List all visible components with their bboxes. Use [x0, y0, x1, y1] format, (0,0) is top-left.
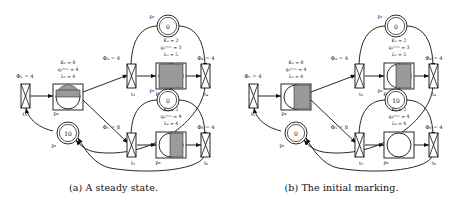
- transition-t5-label: t₅: [359, 160, 363, 166]
- panel-b: t₁ Φ₁ = 4 p₄ K₂ = 8 q₂ᵐᵃˣ = 4 λ₂ = 4 0 p…: [228, 0, 455, 180]
- place-p4-label: p₄: [53, 110, 58, 117]
- caption-panel-a: (a) A steady state.: [0, 182, 227, 193]
- place-p4: [53, 84, 83, 110]
- transition-t1-label: t₁: [251, 111, 255, 117]
- transition-t6: [429, 133, 438, 157]
- place-p6: [384, 132, 414, 158]
- panel-b-place-p1: 0: [285, 122, 307, 144]
- transition-t3-rate: Φ₃ = 4: [331, 55, 349, 61]
- place-p3-tokens: 10: [392, 97, 400, 104]
- panel-b-module-3: 10 p₃ t₅ Φ₅ = 8 p₆ K₄ = 2 q₄ᵐᵃˣ = 4 λ₄ =…: [331, 87, 444, 166]
- place-p4-param-1: K₂ = 8: [289, 60, 304, 65]
- transition-t5-rate: Φ₅ = 8: [103, 124, 120, 130]
- place-p2: 0: [385, 15, 407, 37]
- transition-t6-rate: Φ₆ = 4: [425, 124, 443, 130]
- panel-b-module-1: t₁ Φ₁ = 4 p₄ K₂ = 8 q₂ᵐᵃˣ = 4 λ₂ = 4: [244, 60, 311, 117]
- transition-t4-rate: Φ₄ = 4: [197, 55, 215, 61]
- transition-t1-rate: Φ₁ = 4: [244, 73, 262, 79]
- place-p1-tokens: 10: [64, 130, 72, 137]
- place-p4-param-2: q₂ᵐᵃˣ = 4: [285, 67, 306, 72]
- panel-a: t1 Φ₁ = 4 p₄ K₂ = 8 q₂ᵐᵃˣ = 4 λ₂ = 4: [0, 0, 227, 180]
- place-p4-param-3: λ₂ = 4: [61, 74, 76, 79]
- place-p6-label: p₆: [155, 159, 160, 166]
- place-p1-label: p₁: [279, 142, 284, 149]
- place-p6-param-1: K₄ = 2: [392, 107, 407, 112]
- place-p2-tokens: 0: [394, 23, 398, 30]
- panel-a-module-1: t1 Φ₁ = 4 p₄ K₂ = 8 q₂ᵐᵃˣ = 4 λ₂ = 4: [16, 60, 83, 117]
- transition-t5-label: t₅: [131, 160, 135, 166]
- place-p3-tokens: 0: [166, 97, 170, 104]
- panel-a-module-3: 0 p₃ t₅ Φ₅ = 8 p₆ K₄ = 2 q₄ᵐᵃˣ = 4 λ₄ = …: [103, 87, 216, 166]
- place-p2-tokens: 0: [166, 23, 170, 30]
- place-p2-label: p₂: [377, 13, 382, 20]
- transition-t5-rate: Φ₅ = 8: [331, 124, 348, 130]
- place-p5-param-1: K₃ = 2: [164, 38, 179, 43]
- transition-t1-label: t1: [22, 111, 27, 117]
- place-p6-param-2: q₄ᵐᵃˣ = 4: [388, 114, 409, 119]
- figure-petri-nets: t1 Φ₁ = 4 p₄ K₂ = 8 q₂ᵐᵃˣ = 4 λ₂ = 4: [0, 0, 455, 216]
- place-p4-label: p₄: [281, 110, 286, 117]
- transition-t3-label: t₃: [359, 91, 363, 97]
- place-p3-label: p₃: [149, 87, 154, 94]
- transition-t1: [21, 84, 30, 108]
- transition-t6-label: t₆: [432, 160, 436, 166]
- place-p6: [156, 132, 186, 158]
- transition-t1-rate: Φ₁ = 4: [16, 73, 34, 79]
- place-p6-label: p₆: [383, 159, 388, 166]
- transition-t4: [201, 64, 210, 88]
- transition-t5: [127, 133, 136, 157]
- place-p5-param-3: λ₃ = 5: [164, 52, 179, 57]
- place-p5-param-1: K₃ = 2: [392, 38, 407, 43]
- transition-t6-rate: Φ₆ = 4: [197, 124, 215, 130]
- transition-t3: [127, 64, 136, 88]
- place-p5: [384, 63, 414, 89]
- panel-b-module-2: 0 p₂ t₃ Φ₃ = 4 p₅ K₃ = 2 q₃ᵐᵃˣ = 3 λ₃ = …: [331, 13, 444, 97]
- transition-t3: [355, 64, 364, 88]
- transition-t4-label: t₄: [432, 91, 436, 97]
- place-p3-label: p₃: [377, 87, 382, 94]
- place-p1-label: p₁: [51, 142, 56, 149]
- place-p6-param-2: q₄ᵐᵃˣ = 4: [160, 114, 181, 119]
- place-p4-param-1: K₂ = 8: [61, 60, 76, 65]
- transition-t4-rate: Φ₄ = 4: [425, 55, 443, 61]
- transition-t1: [249, 84, 258, 108]
- place-p2-label: p₂: [149, 13, 154, 20]
- transition-t6-label: t₆: [204, 160, 208, 166]
- place-p5-param-2: q₃ᵐᵃˣ = 3: [160, 45, 181, 50]
- caption-panel-b: (b) The initial marking.: [228, 182, 455, 193]
- transition-t6: [201, 133, 210, 157]
- place-p4-param-3: λ₂ = 4: [289, 74, 304, 79]
- panel-a-place-p1: 10: [57, 122, 79, 144]
- panel-a-module-2: 0 p₂ t₃ Φ₃ = 4 p₅ K₃ = 2 q₃ᵐᵃˣ = 3 λ₃ = …: [103, 13, 216, 97]
- transition-t5: [355, 133, 364, 157]
- place-p4: [281, 84, 311, 110]
- transition-t3-label: t₃: [131, 91, 135, 97]
- transition-t4-label: t₄: [204, 91, 208, 97]
- place-p5-param-3: λ₃ = 5: [392, 52, 407, 57]
- place-p5: [156, 63, 186, 89]
- place-p6-param-3: λ₄ = 4: [164, 121, 179, 126]
- transition-t3-rate: Φ₃ = 4: [103, 55, 121, 61]
- place-p6-param-3: λ₄ = 4: [392, 121, 407, 126]
- place-p5-param-2: q₃ᵐᵃˣ = 3: [388, 45, 409, 50]
- transition-t4: [429, 64, 438, 88]
- place-p4-param-2: q₂ᵐᵃˣ = 4: [57, 67, 78, 72]
- place-p1-tokens: 0: [294, 130, 298, 137]
- place-p6-param-1: K₄ = 2: [164, 107, 179, 112]
- place-p2: 0: [157, 15, 179, 37]
